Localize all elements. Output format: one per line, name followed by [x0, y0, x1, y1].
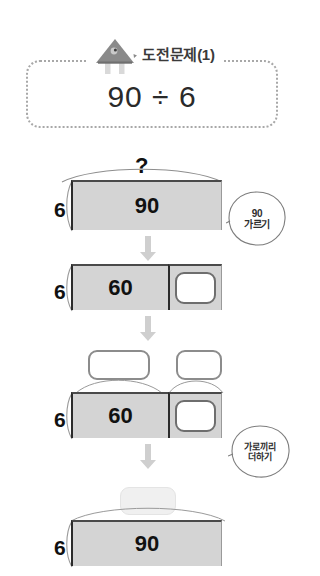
note-split-line2: 가르기 [244, 219, 270, 231]
arrow-2 [139, 316, 157, 342]
bar-segment-90-final: 90 [71, 520, 222, 566]
brace-arc-step-3-left [75, 372, 163, 394]
note-add: 가로끼리 더하기 [228, 424, 292, 480]
bar-row-step-2: 60 [71, 264, 222, 310]
bar-row-step-4: 90 [71, 520, 222, 566]
bar-segment-60: 60 [71, 264, 168, 310]
bar-segment-60-step-3: 60 [71, 392, 168, 438]
problem-expression: 90 ÷ 6 [28, 62, 276, 126]
bar-row-step-3: 60 [71, 392, 222, 438]
note-add-line2: 더하기 [248, 452, 271, 462]
note-split: 90 가르기 [226, 190, 288, 248]
bar-segment-blank-step-3 [168, 392, 222, 438]
bar-segment-90: 90 [71, 180, 222, 230]
answer-box-step-3[interactable] [175, 400, 216, 432]
arrow-3 [139, 444, 157, 470]
arrow-1 [139, 236, 157, 262]
answer-box-step-2[interactable] [175, 272, 216, 304]
bar-segment-blank-step-2 [168, 264, 222, 310]
note-split-line1: 90 [252, 208, 263, 220]
bar-row-step-1: 90 [71, 180, 222, 230]
brace-arc-step-3-right [168, 372, 224, 394]
note-add-line1: 가로끼리 [244, 442, 275, 452]
problem-card: 도전문제(1) 90 ÷ 6 [26, 60, 278, 128]
page-title: 도전문제(1) [142, 43, 214, 64]
unknown-quotient-marker-step-1: ? [135, 155, 148, 177]
brace-arc-step-4 [70, 500, 226, 522]
